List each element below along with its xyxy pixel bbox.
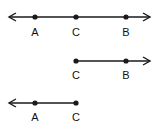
- point-c: [73, 14, 78, 19]
- point-a: [32, 100, 37, 105]
- line-AB: [9, 13, 150, 21]
- ray-CB: [73, 57, 150, 65]
- point-b: [123, 14, 128, 19]
- point-label-c: C: [72, 70, 80, 81]
- point-b: [123, 58, 128, 63]
- point-c: [73, 58, 78, 63]
- point-label-a: A: [31, 27, 38, 38]
- point-a: [32, 14, 37, 19]
- point-label-b: B: [122, 27, 129, 38]
- point-label-b: B: [122, 70, 129, 81]
- ray-CA: [9, 99, 79, 107]
- point-c: [73, 100, 78, 105]
- point-label-c: C: [72, 27, 80, 38]
- point-label-c: C: [72, 112, 80, 123]
- point-label-a: A: [31, 112, 38, 123]
